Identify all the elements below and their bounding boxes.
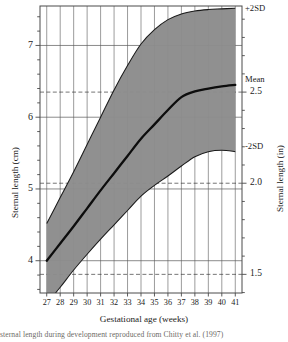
left-axis-title: Sternal length (cm) [11, 147, 20, 218]
bottom-tick-33: 33 [121, 299, 135, 307]
left-tick-6: 6 [28, 112, 33, 122]
bottom-tick-32: 32 [107, 299, 121, 307]
bottom-tick-34: 34 [134, 299, 148, 307]
bottom-tick-36: 36 [161, 299, 175, 307]
chart-svg [0, 0, 288, 342]
bottom-tick-41: 41 [228, 299, 242, 307]
left-tick-4: 4 [28, 255, 33, 265]
bottom-tick-38: 38 [188, 299, 202, 307]
left-tick-7: 7 [28, 40, 33, 50]
mean-label: Mean [245, 75, 265, 84]
right-tick-2.5: 2.5 [250, 87, 262, 97]
left-axis-ticks [36, 17, 41, 290]
right-axis-ticks [242, 19, 247, 292]
bottom-tick-39: 39 [201, 299, 215, 307]
bottom-tick-30: 30 [80, 299, 94, 307]
bottom-axis-ticks [47, 293, 236, 297]
right-axis-title: Sternal length (in) [276, 145, 285, 212]
bottom-tick-40: 40 [215, 299, 229, 307]
left-tick-5: 5 [28, 183, 33, 193]
bottom-tick-31: 31 [94, 299, 108, 307]
figure-caption: sternal length during development reprod… [0, 330, 288, 342]
bottom-tick-35: 35 [147, 299, 161, 307]
plus2sd-label: +2SD [245, 4, 265, 13]
bottom-axis-title: Gestational age (weeks) [0, 315, 288, 324]
bottom-tick-28: 28 [53, 299, 67, 307]
bottom-tick-27: 27 [40, 299, 54, 307]
right-tick-1.5: 1.5 [250, 269, 262, 279]
chart-figure: 4567 1.52.02.5 2728293031323334353637383… [0, 0, 288, 342]
minus2sd-label: -2SD [245, 142, 263, 151]
bottom-tick-37: 37 [174, 299, 188, 307]
right-tick-2.0: 2.0 [250, 178, 262, 188]
bottom-tick-29: 29 [67, 299, 81, 307]
